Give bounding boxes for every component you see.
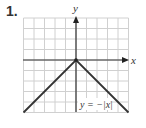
x-axis-label: x: [130, 54, 136, 66]
function-label: y = −|x|: [79, 99, 113, 110]
graph: x y y = −|x|: [0, 0, 146, 128]
y-axis-arrow-icon: [73, 16, 79, 23]
x-axis-arrow-icon: [122, 57, 129, 63]
y-axis-label: y: [72, 2, 78, 14]
origin-point: [74, 58, 78, 62]
